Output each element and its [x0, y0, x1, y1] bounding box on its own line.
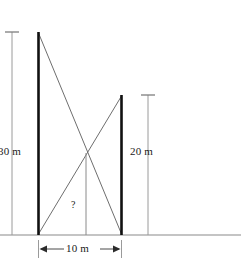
span-dimension-left-arrowhead — [40, 246, 48, 253]
right-height-dimension — [141, 95, 155, 235]
diagram-canvas — [0, 0, 241, 275]
left-height-dimension — [5, 32, 19, 235]
unknown-height-label: ? — [71, 200, 76, 210]
cable-left-top-to-right-base — [39, 33, 122, 234]
crossed-poles-diagram: 30 m 20 m 10 m ? — [0, 0, 241, 275]
span-label: 10 m — [66, 243, 89, 254]
span-dimension-right-arrowhead — [113, 246, 121, 253]
cable-right-top-to-left-base — [39, 96, 122, 234]
left-height-label: 30 m — [0, 146, 21, 157]
right-height-label: 20 m — [130, 146, 153, 157]
